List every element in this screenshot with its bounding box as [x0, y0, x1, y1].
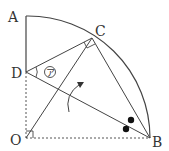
label-A: A [7, 9, 19, 25]
segment-OC [26, 38, 92, 138]
label-O: O [10, 132, 21, 148]
segment-DC [26, 38, 92, 72]
angle-mark-label: ア [46, 68, 55, 78]
label-B: B [152, 134, 162, 150]
geometry-diagram: ア A C D O B [0, 0, 169, 151]
label-C: C [95, 23, 106, 39]
angle-arc-D [36, 67, 37, 77]
angle-dot-2 [123, 126, 129, 132]
label-D: D [11, 65, 22, 81]
angle-dot-1 [128, 117, 134, 123]
